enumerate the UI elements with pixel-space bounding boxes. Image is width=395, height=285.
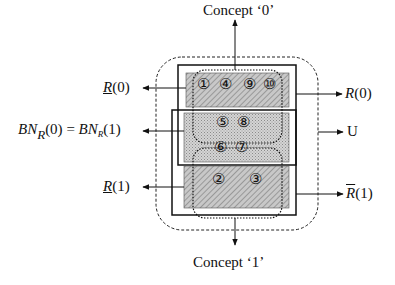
lower-approx-1-label: R(1) — [103, 179, 130, 194]
object-6: ⑥ — [214, 140, 227, 155]
object-2: ② — [212, 172, 225, 187]
boundary-right-arg: (1) — [103, 121, 121, 137]
lower-approx-1-region — [184, 166, 289, 208]
lower-approx-1-symbol: R — [103, 178, 112, 194]
object-3: ③ — [249, 172, 262, 187]
object-10: ⑩ — [263, 77, 276, 92]
boundary-left-sub: R — [37, 127, 45, 142]
upper-approx-1-label: R(1) — [346, 186, 373, 201]
boundary-equals: = — [66, 121, 74, 137]
rough-set-diagram — [0, 0, 395, 285]
upper-approx-1-symbol: R — [346, 185, 355, 201]
object-5: ⑤ — [216, 115, 229, 130]
lower-approx-0-symbol: R — [103, 79, 112, 95]
boundary-right-sub: R — [98, 129, 104, 139]
upper-approx-1-arg: (1) — [355, 185, 373, 201]
object-4: ④ — [219, 77, 232, 92]
object-9: ⑨ — [243, 77, 256, 92]
upper-approx-0-label: R(0) — [345, 86, 372, 101]
universe-label: U — [347, 124, 358, 139]
concept-0-label: Concept ‘0’ — [203, 3, 274, 18]
lower-approx-0-arg: (0) — [112, 79, 130, 95]
object-7: ⑦ — [235, 140, 248, 155]
object-8: ⑧ — [237, 115, 250, 130]
lower-approx-0-label: R(0) — [103, 80, 130, 95]
upper-approx-0-symbol: R — [345, 85, 354, 101]
boundary-left-bn: BN — [18, 121, 37, 137]
boundary-left-arg: (0) — [45, 121, 63, 137]
concept-1-label: Concept ‘1’ — [193, 255, 264, 270]
upper-approx-0-arg: (0) — [354, 85, 372, 101]
lower-approx-1-arg: (1) — [112, 178, 130, 194]
boundary-label: BNR(0) = BNR(1) — [18, 122, 121, 137]
boundary-right-bn: BN — [79, 121, 98, 137]
object-1: ① — [197, 77, 210, 92]
